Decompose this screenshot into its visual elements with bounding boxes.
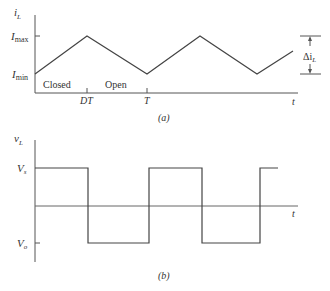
a-dt-label: DT [79,95,94,106]
inductor-current-waveform [35,36,293,74]
arrow-down-icon [308,69,312,74]
a-caption: (a) [158,112,170,124]
open-label: Open [105,79,127,90]
a-y-axis-label: iL [14,6,21,21]
figure-b: vL Vs Vo t (b) [14,132,298,282]
b-x-axis-label: t [292,208,295,219]
arrow-up-icon [308,36,312,41]
a-imin-label: Imin [11,68,28,82]
b-vs-label: Vs [17,162,27,176]
b-caption: (b) [158,270,170,282]
a-imax-label: Imax [10,30,28,44]
b-y-axis-label: vL [14,132,23,147]
b-vo-label: Vo [17,237,28,251]
ripple-label: ΔiL [303,51,316,64]
closed-label: Closed [43,79,71,90]
a-t-label: T [144,95,151,106]
a-x-axis-label: t [292,96,295,107]
diagram-canvas: iL Imax Imin Closed Open DT T t ΔiL (a) … [0,0,330,291]
figure-a: iL Imax Imin Closed Open DT T t ΔiL (a) [10,6,321,124]
